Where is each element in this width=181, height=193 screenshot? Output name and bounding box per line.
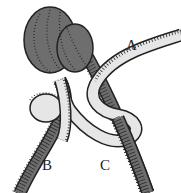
label-a: A bbox=[126, 38, 137, 53]
label-c: C bbox=[100, 158, 110, 173]
knot-diagram bbox=[0, 0, 181, 193]
dark-knot-head bbox=[24, 7, 93, 73]
label-b: B bbox=[42, 158, 52, 173]
